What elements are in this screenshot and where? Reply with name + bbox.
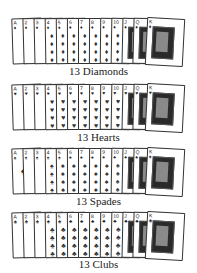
spades-icon: ♠ xyxy=(149,154,152,159)
hearts-pip-icon: ♥ xyxy=(61,107,65,114)
spades-icon: ♠ xyxy=(25,155,28,160)
spades-pip-icon: ♠ xyxy=(72,171,76,178)
hearts-pip-icon: ♥ xyxy=(116,107,120,114)
hearts-pip-icon: ♥ xyxy=(105,99,109,106)
clubs-pip-icon: ♣ xyxy=(105,227,110,234)
playing-card-K-hearts: K♥ xyxy=(145,83,185,133)
spades-pip-icon: ♠ xyxy=(83,163,87,170)
clubs-pip-icon: ♣ xyxy=(61,227,66,234)
spades-pip-icon: ♠ xyxy=(116,179,120,186)
clubs-pip-icon: ♣ xyxy=(72,243,77,250)
diamonds-pip-icon: ♦ xyxy=(94,33,98,40)
diamonds-icon: ♦ xyxy=(36,25,39,30)
clubs-pip-icon: ♣ xyxy=(116,251,121,258)
hearts-icon: ♥ xyxy=(36,91,39,96)
face-card-art xyxy=(151,156,175,189)
clubs-pip-icon: ♣ xyxy=(105,243,110,250)
hearts-pip-icon: ♥ xyxy=(94,123,98,130)
clubs-pip-icon: ♣ xyxy=(94,251,99,258)
clubs-pip-icon: ♣ xyxy=(50,251,55,258)
caption-spades: 13 Spades xyxy=(0,195,197,207)
spades-icon: ♠ xyxy=(47,155,50,160)
clubs-icon: ♣ xyxy=(113,219,116,224)
hearts-pip-icon: ♥ xyxy=(94,107,98,114)
hearts-pip-icon: ♥ xyxy=(61,99,65,106)
hearts-pip-icon: ♥ xyxy=(72,115,76,122)
diamonds-pip-icon: ♦ xyxy=(61,33,65,40)
clubs-icon: ♣ xyxy=(124,219,127,224)
spades-icon: ♠ xyxy=(124,155,127,160)
clubs-pip-icon: ♣ xyxy=(72,251,77,258)
hearts-pip-icon: ♥ xyxy=(116,115,120,122)
spades-pip-icon: ♠ xyxy=(116,171,120,178)
hearts-icon: ♥ xyxy=(102,91,105,96)
spades-pip-icon: ♠ xyxy=(61,171,65,178)
hearts-icon: ♥ xyxy=(135,91,138,96)
hearts-pip-icon: ♥ xyxy=(94,115,98,122)
diamonds-pip-icon: ♦ xyxy=(50,57,54,64)
clubs-pip-icon: ♣ xyxy=(61,251,66,258)
spades-pip-icon: ♠ xyxy=(83,187,87,194)
playing-card-K-spades: K♠ xyxy=(145,147,185,197)
hearts-icon: ♥ xyxy=(149,90,152,95)
spades-pip-icon: ♠ xyxy=(50,187,54,194)
hearts-pip-icon: ♥ xyxy=(83,123,87,130)
diamonds-pip-icon: ♦ xyxy=(83,33,87,40)
diamonds-pip-icon: ♦ xyxy=(116,33,120,40)
hearts-pip-icon: ♥ xyxy=(116,99,120,106)
hearts-pip-icon: ♥ xyxy=(105,115,109,122)
diamonds-pip-icon: ♦ xyxy=(72,33,76,40)
diamonds-pip-icon: ♦ xyxy=(61,57,65,64)
hearts-pip-icon: ♥ xyxy=(83,99,87,106)
diamonds-icon: ♦ xyxy=(149,24,152,29)
diamonds-icon: ♦ xyxy=(25,25,28,30)
clubs-icon: ♣ xyxy=(25,219,28,224)
diamonds-icon: ♦ xyxy=(69,25,72,30)
playing-card-K-diamonds: K♦ xyxy=(145,17,185,67)
diamonds-icon: ♦ xyxy=(135,25,138,30)
spades-icon: ♠ xyxy=(14,155,17,160)
clubs-pip-icon: ♣ xyxy=(116,243,121,250)
diamonds-icon: ♦ xyxy=(91,25,94,30)
clubs-pip-icon: ♣ xyxy=(116,227,121,234)
spades-pip-icon: ♠ xyxy=(116,187,120,194)
diamonds-pip-icon: ♦ xyxy=(83,41,87,48)
hearts-pip-icon: ♥ xyxy=(94,99,98,106)
diamonds-pip-icon: ♦ xyxy=(116,49,120,56)
diamonds-icon: ♦ xyxy=(14,25,17,30)
diamonds-pip-icon: ♦ xyxy=(116,41,120,48)
spades-icon: ♠ xyxy=(69,155,72,160)
diamonds-pip-icon: ♦ xyxy=(105,57,109,64)
clubs-pip-icon: ♣ xyxy=(83,251,88,258)
hearts-icon: ♥ xyxy=(47,91,50,96)
clubs-pip-icon: ♣ xyxy=(105,235,110,242)
spades-pip-icon: ♠ xyxy=(61,179,65,186)
clubs-pip-icon: ♣ xyxy=(83,235,88,242)
diamonds-pip-icon: ♦ xyxy=(72,41,76,48)
clubs-icon: ♣ xyxy=(58,219,61,224)
hearts-icon: ♥ xyxy=(14,91,17,96)
spades-pip-icon: ♠ xyxy=(61,163,65,170)
hearts-icon: ♥ xyxy=(58,91,61,96)
spades-icon: ♠ xyxy=(36,155,39,160)
diamonds-pip-icon: ♦ xyxy=(94,41,98,48)
spades-pip-icon: ♠ xyxy=(94,179,98,186)
clubs-pip-icon: ♣ xyxy=(105,251,110,258)
hearts-pip-icon: ♥ xyxy=(72,107,76,114)
spades-pip-icon: ♠ xyxy=(105,171,109,178)
clubs-icon: ♣ xyxy=(14,219,17,224)
diamonds-pip-icon: ♦ xyxy=(83,57,87,64)
clubs-pip-icon: ♣ xyxy=(72,227,77,234)
clubs-pip-icon: ♣ xyxy=(94,235,99,242)
hearts-icon: ♥ xyxy=(124,91,127,96)
spades-pip-icon: ♠ xyxy=(116,163,120,170)
clubs-pip-icon: ♣ xyxy=(94,243,99,250)
face-card-art xyxy=(151,220,175,253)
hearts-pip-icon: ♥ xyxy=(105,123,109,130)
spades-pip-icon: ♠ xyxy=(105,163,109,170)
clubs-icon: ♣ xyxy=(80,219,83,224)
spades-pip-icon: ♠ xyxy=(72,163,76,170)
hearts-pip-icon: ♥ xyxy=(72,123,76,130)
clubs-icon: ♣ xyxy=(47,219,50,224)
playing-card-K-clubs: K♣ xyxy=(145,211,185,261)
